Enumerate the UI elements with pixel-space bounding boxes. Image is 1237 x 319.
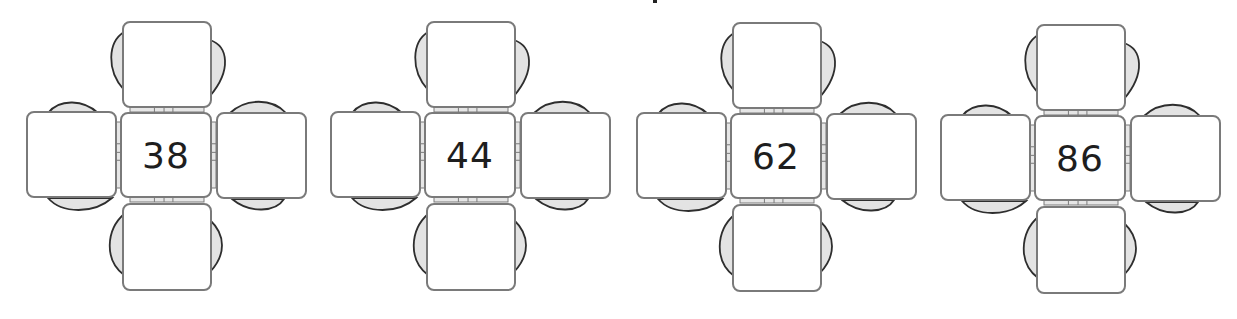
chair-back-right-bottom: [232, 199, 284, 210]
seat-bottom: [1037, 207, 1125, 293]
chair-back-right-top: [1144, 105, 1200, 116]
chair-back-left-bottom: [658, 199, 722, 211]
table-number: 86: [1035, 116, 1125, 200]
table-number: 62: [731, 114, 821, 198]
seat-top: [427, 22, 515, 107]
seat-bottom: [427, 204, 515, 290]
seat-top: [123, 22, 211, 107]
table-cluster-1: 38: [0, 0, 300, 319]
seat-right: [521, 113, 610, 198]
chair-back-bottom-left: [110, 214, 124, 275]
seat-top: [733, 23, 821, 108]
seat-bottom: [123, 204, 211, 290]
chair-back-right-bottom: [1146, 202, 1198, 213]
table-cluster-3: 62: [610, 0, 910, 319]
chair-back-right-top: [230, 102, 286, 113]
chair-back-bottom-left: [1024, 217, 1038, 278]
chair-back-top-right: [210, 40, 225, 96]
seat-left: [637, 113, 726, 198]
chair-back-top-right: [820, 41, 835, 97]
seat-right: [1131, 116, 1220, 201]
seat-left: [941, 115, 1030, 200]
table-cluster-2: 44: [304, 0, 604, 319]
chair-back-top-right: [514, 40, 529, 96]
chair-back-right-bottom: [842, 200, 894, 211]
chair-back-right-bottom: [536, 199, 588, 210]
chair-back-bottom-left: [720, 215, 734, 276]
seat-bottom: [733, 205, 821, 291]
chair-back-left-bottom: [352, 198, 416, 210]
table-number: 44: [425, 113, 515, 197]
chair-back-right-top: [534, 102, 590, 113]
table-number: 38: [121, 113, 211, 197]
diagram-canvas: 38 44 62 86: [0, 0, 1237, 319]
chair-back-top-right: [1124, 43, 1139, 99]
seat-top: [1037, 25, 1125, 110]
chair-back-bottom-left: [414, 214, 428, 275]
seat-left: [331, 112, 420, 197]
seat-right: [827, 114, 916, 199]
seat-right: [217, 113, 306, 198]
chair-back-left-bottom: [962, 201, 1026, 213]
chair-back-left-bottom: [48, 198, 112, 210]
seat-left: [27, 112, 116, 197]
table-cluster-4: 86: [914, 0, 1214, 319]
chair-back-right-top: [840, 103, 896, 114]
